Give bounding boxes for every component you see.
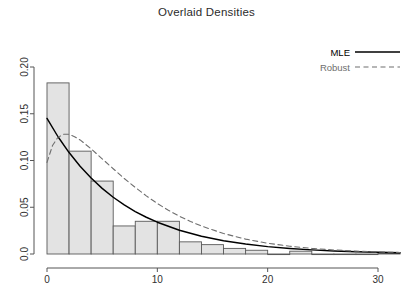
histogram-bars	[47, 83, 400, 255]
x-axis-tick-label: 0	[44, 274, 50, 285]
y-axis-tick-label: 0.0	[19, 247, 30, 261]
histogram-bar	[246, 250, 268, 254]
histogram-bar	[356, 254, 378, 255]
x-axis-tick-label: 20	[262, 274, 274, 285]
chart-legend: MLERobust	[320, 47, 400, 73]
y-axis-tick-label: 0.15	[19, 104, 30, 124]
overlaid-densities-chart: 0.00.050.100.150.200102030 MLERobust	[0, 0, 413, 303]
chart-root: Overlaid Densities 0.00.050.100.150.2001…	[0, 0, 413, 303]
histogram-bar	[334, 254, 356, 255]
y-axis-tick-label: 0.10	[19, 150, 30, 170]
histogram-bar	[201, 245, 223, 254]
histogram-bar	[224, 248, 246, 254]
histogram-bar	[91, 181, 113, 254]
histogram-bar	[135, 221, 157, 254]
histogram-bar	[179, 242, 201, 254]
y-axis-tick-label: 0.20	[19, 57, 30, 77]
histogram-bar	[113, 226, 135, 254]
x-axis-tick-label: 10	[152, 274, 164, 285]
histogram-bar	[268, 254, 290, 255]
y-axis-tick-label: 0.05	[19, 197, 30, 217]
legend-label-robust: Robust	[320, 62, 350, 73]
histogram-bar	[47, 83, 69, 254]
legend-label-mle: MLE	[330, 47, 350, 58]
histogram-bar	[290, 251, 312, 254]
histogram-bar	[312, 254, 334, 255]
x-axis-tick-label: 30	[372, 274, 384, 285]
